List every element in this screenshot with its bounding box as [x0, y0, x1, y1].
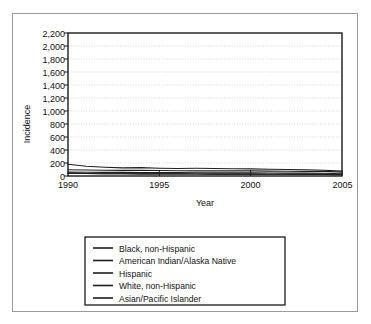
y-tick-label: 800	[50, 120, 65, 130]
y-tick-label: 2,200	[42, 29, 65, 39]
gridlines	[68, 46, 342, 163]
legend-item-label: Black, non-Hispanic	[119, 244, 196, 254]
x-tick-label: 2005	[332, 180, 352, 190]
plot-frame	[68, 33, 342, 176]
x-tick-label: 1990	[58, 180, 78, 190]
legend-item-label: White, non-Hispanic	[119, 281, 197, 291]
y-tick-label: 1,600	[42, 68, 65, 78]
y-tick-label: 1,400	[42, 81, 65, 91]
y-tick-label: 1,800	[42, 55, 65, 65]
legend-item-label: American Indian/Alaska Native	[119, 256, 236, 266]
figure-container: Incidence 0 200 400 600 800 1,000 1,200 …	[12, 13, 358, 312]
series-lines	[68, 164, 343, 174]
y-tick-label: 400	[50, 146, 65, 156]
line-chart-svg: Incidence 0 200 400 600 800 1,000 1,200 …	[13, 14, 359, 313]
legend-item-label: Asian/Pacific Islander	[119, 294, 201, 304]
y-tick-label: 2,000	[42, 42, 65, 52]
y-tick-labels: 0 200 400 600 800 1,000 1,200 1,400 1,60…	[42, 29, 65, 182]
y-tick-label: 200	[50, 159, 65, 169]
y-tick-label: 1,000	[42, 107, 65, 117]
x-axis-title: Year	[196, 198, 214, 208]
legend: Black, non-Hispanic American Indian/Alas…	[85, 237, 285, 305]
y-tick-label: 1,200	[42, 94, 65, 104]
legend-item-label: Hispanic	[119, 269, 153, 279]
x-tick-labels: 1990 1995 2000 2005	[58, 180, 353, 190]
x-tick-label: 1995	[149, 180, 169, 190]
y-tick-label: 600	[50, 133, 65, 143]
y-axis-title: Incidence	[22, 105, 32, 144]
x-tick-label: 2000	[241, 180, 261, 190]
chart-area: Incidence 0 200 400 600 800 1,000 1,200 …	[13, 14, 359, 313]
